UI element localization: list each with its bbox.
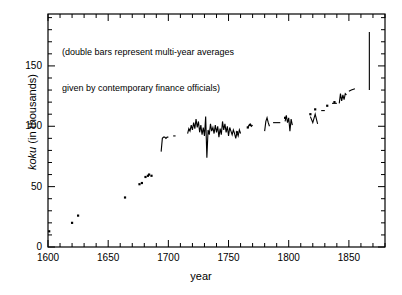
data-marker bbox=[309, 113, 311, 115]
annotation-line-2: given by contemporary finance officials) bbox=[62, 82, 234, 94]
chart-figure: (double bars represent multi-year averag… bbox=[0, 0, 402, 295]
y-tick-label: 0 bbox=[12, 241, 42, 252]
y-axis-label-units: (in thousands) bbox=[26, 74, 38, 147]
y-tick-label: 50 bbox=[12, 181, 42, 192]
chart-annotation: (double bars represent multi-year averag… bbox=[62, 22, 234, 118]
seg-1818-1824 bbox=[310, 114, 317, 124]
data-marker bbox=[236, 131, 238, 133]
y-axis-label-koku: koku bbox=[26, 147, 38, 170]
data-marker bbox=[249, 124, 251, 126]
data-marker bbox=[71, 222, 73, 224]
x-axis-label: year bbox=[0, 270, 402, 282]
data-marker bbox=[314, 108, 316, 110]
seg-1694-1700 bbox=[161, 137, 168, 151]
x-tick-label: 1700 bbox=[146, 252, 190, 263]
data-marker bbox=[284, 117, 286, 119]
seg-1842-1848 bbox=[339, 94, 346, 104]
x-tick-label: 1750 bbox=[207, 252, 251, 263]
data-marker bbox=[124, 196, 126, 198]
data-marker bbox=[150, 175, 152, 177]
data-marker bbox=[247, 126, 249, 128]
y-tick-label: 100 bbox=[12, 120, 42, 131]
x-tick-label: 1600 bbox=[26, 252, 70, 263]
data-marker bbox=[141, 182, 143, 184]
x-tick-label: 1800 bbox=[267, 252, 311, 263]
data-marker bbox=[138, 183, 140, 185]
seg-1780-1784 bbox=[265, 118, 270, 131]
data-marker bbox=[333, 101, 335, 103]
y-tick-label: 150 bbox=[12, 60, 42, 71]
seg-1850-1855 bbox=[349, 89, 355, 91]
data-marker bbox=[77, 215, 79, 217]
data-marker bbox=[326, 105, 328, 107]
x-tick-label: 1650 bbox=[86, 252, 130, 263]
data-marker bbox=[48, 230, 50, 232]
x-tick-label: 1850 bbox=[327, 252, 371, 263]
data-marker bbox=[148, 173, 150, 175]
annotation-line-1: (double bars represent multi-year averag… bbox=[62, 46, 234, 58]
data-marker bbox=[144, 176, 146, 178]
seg-1716-1760 bbox=[188, 117, 241, 158]
